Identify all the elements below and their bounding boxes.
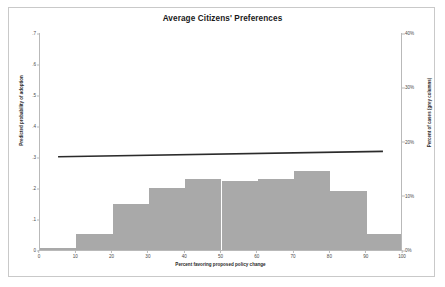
plot-area bbox=[39, 33, 402, 250]
y-axis-right-tick-label: 10% bbox=[405, 193, 414, 198]
predicted-probability-line bbox=[58, 151, 383, 156]
y-axis-left-tick-label: .6 bbox=[32, 62, 36, 67]
x-axis-tick-label: 0 bbox=[38, 254, 41, 259]
y-axis-right-tick-label: 20% bbox=[405, 139, 414, 144]
x-axis-tick-label: 90 bbox=[363, 254, 368, 259]
chart-title: Average Citizens' Preferences bbox=[0, 14, 445, 23]
x-axis-tick-label: 30 bbox=[145, 254, 150, 259]
y-axis-left-tick-label: .4 bbox=[32, 124, 36, 129]
x-axis-tick-label: 50 bbox=[218, 254, 223, 259]
y-axis-left-tick-label: .7 bbox=[32, 31, 36, 36]
y-axis-right-tick-label: 40% bbox=[405, 31, 414, 36]
y-axis-left-tick-label: .3 bbox=[32, 155, 36, 160]
chart-figure: Average Citizens' Preferences Predicted … bbox=[0, 0, 445, 287]
y-axis-left-ticks: .7.6.5.4.3.2.10 bbox=[0, 33, 39, 250]
x-axis-tick-label: 20 bbox=[109, 254, 114, 259]
y-axis-right-tick-label: 0% bbox=[405, 248, 412, 253]
x-axis-tick-label: 40 bbox=[182, 254, 187, 259]
trend-line-layer bbox=[40, 33, 401, 250]
x-axis-tick-label: 100 bbox=[398, 254, 406, 259]
x-axis-tick-label: 80 bbox=[327, 254, 332, 259]
x-axis-label: Percent favoring proposed policy change bbox=[39, 262, 402, 267]
y-axis-left-tick-label: .5 bbox=[32, 93, 36, 98]
y-axis-right-ticks: 40%30%20%10%0% bbox=[402, 33, 444, 250]
y-axis-right-tick-label: 30% bbox=[405, 85, 414, 90]
y-axis-left-tick-label: 0 bbox=[33, 248, 36, 253]
x-axis-tick-label: 10 bbox=[73, 254, 78, 259]
x-axis-tick-label: 60 bbox=[254, 254, 259, 259]
y-axis-left-tick-label: .1 bbox=[32, 217, 36, 222]
plot-inner bbox=[40, 33, 401, 250]
y-axis-left-tick-label: .2 bbox=[32, 186, 36, 191]
x-axis-tick-label: 70 bbox=[291, 254, 296, 259]
